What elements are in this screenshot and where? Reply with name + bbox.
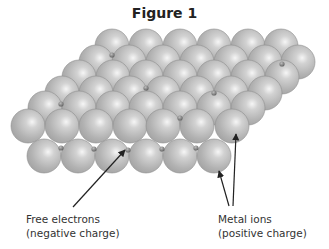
metal-ion-sphere [180, 109, 214, 143]
free-electrons-label-line2: (negative charge) [26, 226, 120, 240]
free-electrons-label: Free electrons (negative charge) [26, 212, 120, 240]
metal-ion-sphere [95, 139, 129, 173]
free-electron-dot [193, 145, 198, 150]
free-electron-dot [109, 52, 114, 57]
metal-ion-sphere [61, 139, 95, 173]
free-electrons-label-line1: Free electrons [26, 212, 120, 226]
metal-ions-label-line2: (positive charge) [218, 226, 307, 240]
metal-ion-sphere [146, 109, 180, 143]
metal-ion-sphere [27, 139, 61, 173]
free-electron-dot [91, 146, 96, 151]
arrow-to-metal-ion [233, 134, 236, 206]
metal-ions-label-line1: Metal ions [218, 212, 307, 226]
metal-ion-sphere [113, 109, 147, 143]
metal-ion-sphere [163, 139, 197, 173]
metal-ion-sphere [129, 139, 163, 173]
free-electron-dot [143, 85, 148, 90]
free-electron-dot [58, 145, 63, 150]
metal-ion-sphere [79, 109, 113, 143]
free-electron-dot [211, 90, 216, 95]
free-electron-dot [125, 147, 130, 152]
free-electron-dot [177, 115, 182, 120]
metal-ion-sphere [215, 109, 249, 143]
free-electron-dot [159, 146, 164, 151]
free-electron-dot [58, 101, 63, 106]
free-electron-dot [279, 61, 284, 66]
metal-ion-sphere [45, 109, 79, 143]
arrow-to-metal-ion [219, 171, 229, 206]
metal-ion-sphere [197, 139, 231, 173]
metal-ion-sphere [11, 109, 45, 143]
metal-ions-label: Metal ions (positive charge) [218, 212, 307, 240]
